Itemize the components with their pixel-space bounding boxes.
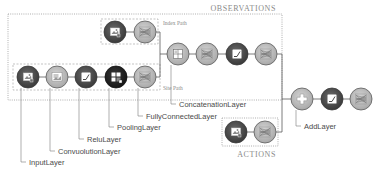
site-path-label: Site Path <box>163 85 183 91</box>
network-diagram: OBSERVATIONS Index Path Site Path ACTION… <box>0 0 383 173</box>
action-fc-node[interactable] <box>254 121 276 143</box>
relu-icon <box>82 73 91 82</box>
action-input-node[interactable] <box>225 121 247 143</box>
label-pooling-layer: PoolingLayer <box>117 123 161 132</box>
image-input-icon <box>232 128 242 137</box>
label-input-layer: InputLayer <box>29 158 65 167</box>
obs-fc1-node[interactable] <box>196 43 218 65</box>
add-node[interactable] <box>291 88 313 110</box>
concat-node[interactable] <box>167 43 189 65</box>
concatenation-icon <box>174 50 183 59</box>
label-concat-layer: ConcatenationLayer <box>179 100 247 109</box>
relu-icon <box>233 50 242 59</box>
site-input-node[interactable] <box>17 66 39 88</box>
site-relu-node[interactable] <box>75 66 97 88</box>
obs-fc2-node[interactable] <box>255 43 277 65</box>
relu-icon <box>328 95 337 104</box>
label-add-layer: AddLayer <box>304 122 337 131</box>
observations-group-label: OBSERVATIONS <box>210 4 276 13</box>
site-fc-node[interactable] <box>134 66 156 88</box>
image-input-icon <box>24 73 34 82</box>
index-fc-node[interactable] <box>134 21 156 43</box>
pooling-icon <box>112 73 123 84</box>
actions-group-label: ACTIONS <box>237 150 276 159</box>
site-pool-node[interactable] <box>105 66 127 88</box>
label-fc-layer: FullyConnectedLayer <box>146 112 217 121</box>
label-conv-layer: ConvuolutionLayer <box>58 147 121 156</box>
label-relu-layer: ReluLayer <box>87 135 122 144</box>
index-input-node[interactable] <box>104 21 126 43</box>
image-input-icon <box>111 28 121 37</box>
site-conv-node[interactable] <box>46 66 68 88</box>
convolution-icon <box>52 73 62 82</box>
obs-relu-node[interactable] <box>226 43 248 65</box>
index-path-label: Index Path <box>163 20 187 26</box>
out-fc-node[interactable] <box>350 88 372 110</box>
out-relu-node[interactable] <box>321 88 343 110</box>
